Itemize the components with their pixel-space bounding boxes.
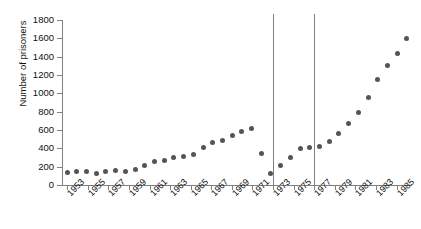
data-point: [278, 163, 283, 168]
data-point: [84, 169, 89, 174]
data-point: [395, 51, 400, 56]
data-point: [162, 158, 167, 163]
data-point: [65, 170, 70, 175]
data-point: [103, 169, 108, 174]
data-point: [336, 131, 341, 136]
data-point: [94, 171, 99, 176]
data-point: [249, 126, 254, 131]
data-point: [239, 129, 244, 134]
data-point: [152, 159, 157, 164]
data-point: [230, 133, 235, 138]
data-point: [259, 151, 264, 156]
data-point: [288, 155, 293, 160]
data-point: [181, 154, 186, 159]
data-point-layer: [0, 0, 421, 229]
data-point: [171, 155, 176, 160]
prisoners-scatter-chart: Number of prisoners 02004006008001000120…: [0, 0, 421, 229]
data-point: [113, 168, 118, 173]
data-point: [298, 146, 303, 151]
data-point: [74, 169, 79, 174]
data-point: [191, 152, 196, 157]
data-point: [220, 138, 225, 143]
data-point: [123, 169, 128, 174]
data-point: [385, 63, 390, 68]
data-point: [327, 139, 332, 144]
data-point: [404, 36, 409, 41]
data-point: [317, 144, 322, 149]
data-point: [375, 77, 380, 82]
data-point: [142, 163, 147, 168]
data-point: [356, 110, 361, 115]
data-point: [346, 121, 351, 126]
data-point: [268, 171, 273, 176]
data-point: [201, 145, 206, 150]
data-point: [210, 140, 215, 145]
data-point: [133, 167, 138, 172]
data-point: [307, 145, 312, 150]
data-point: [366, 95, 371, 100]
